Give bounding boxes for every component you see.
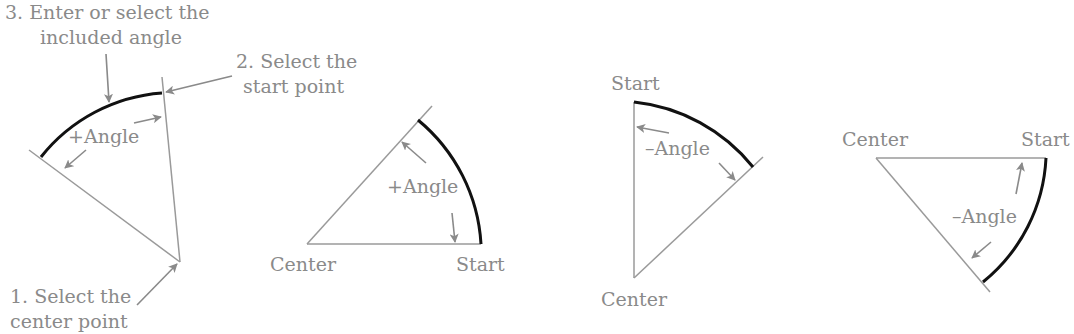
panel1-step3-line2: included angle [40,26,182,48]
panel1-step1-line2: center point [10,310,128,332]
panel3-end-radius-line [634,157,763,278]
arc-diagram-canvas: 3. Enter or select the included angle 2.… [0,0,1074,334]
panel1-step3-leader-arrow-icon [106,54,109,102]
panel4-angle-arrow-to-start-icon [1016,163,1022,194]
panel2-center-label: Center [270,253,337,275]
panel4-angle-arrow-to-end-icon [972,242,991,258]
panel-3-negative-angle: Start Center –Angle [601,72,763,310]
panel3-angle-arrow-to-end-icon [719,163,735,180]
panel1-step2-leader-arrow-icon [166,76,232,92]
panel1-step1-line1: 1. Select the [10,285,131,307]
panel1-angle-label: +Angle [68,125,139,147]
panel2-start-label: Start [456,253,505,275]
panel3-angle-label: –Angle [645,137,710,159]
panel1-angle-arrow-to-start-icon [134,117,161,123]
panel1-step2-line2: start point [243,75,344,97]
panel4-start-label: Start [1021,128,1070,150]
panel2-angle-label: +Angle [387,175,458,197]
panel-2-positive-angle: Center Start +Angle [270,106,505,275]
panel3-start-label: Start [611,72,660,94]
panel3-center-label: Center [601,288,668,310]
panel2-angle-arrow-to-start-icon [452,213,455,242]
panel-4-negative-angle: Center Start –Angle [842,128,1070,292]
panel4-angle-label: –Angle [952,205,1017,227]
panel4-center-label: Center [842,128,909,150]
panel1-step1-leader-arrow-icon [137,264,177,305]
panel-1-positive-angle-steps: 3. Enter or select the included angle 2.… [5,1,357,332]
panel3-angle-arrow-to-start-icon [637,127,669,133]
panel1-end-radius-line [29,150,180,262]
panel1-start-radius-line [162,77,180,262]
panel1-step3-line1: 3. Enter or select the [5,1,210,23]
panel1-step2-line1: 2. Select the [236,50,357,72]
panel2-angle-arrow-to-end-icon [402,142,426,163]
panel1-angle-arrow-to-end-icon [65,150,86,168]
